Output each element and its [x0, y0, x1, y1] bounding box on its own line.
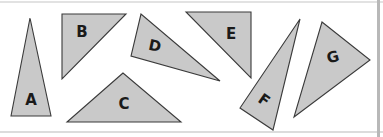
triangle-b: B [62, 14, 126, 79]
triangle-e-label: E [226, 25, 236, 43]
triangle-g-shape [294, 22, 370, 117]
triangle-a: A [11, 18, 51, 116]
triangle-b-shape [62, 14, 126, 79]
triangle-a-label: A [25, 91, 37, 109]
triangles-diagram: A B C D E F G [0, 0, 383, 137]
triangle-g: G [294, 22, 370, 117]
triangle-c-label: C [118, 95, 129, 113]
triangle-b-label: B [76, 23, 87, 41]
triangle-c: C [67, 73, 181, 122]
